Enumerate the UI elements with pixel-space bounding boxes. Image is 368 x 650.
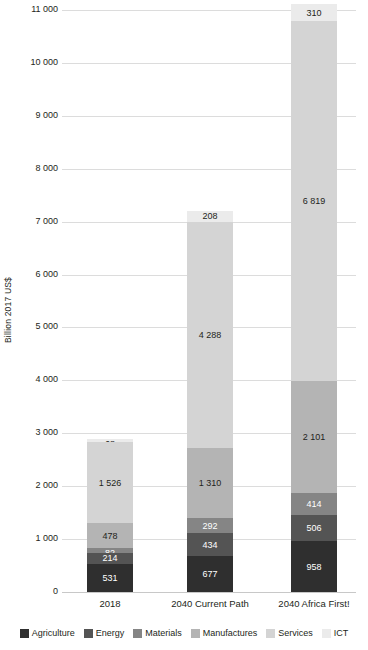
bar-segment[interactable]: 310: [291, 4, 337, 20]
bar-segment-label: 214: [87, 553, 133, 563]
stacked-bar[interactable]: 6774342921 3104 288208: [187, 10, 233, 592]
bar-segment-label: 958: [291, 562, 337, 572]
legend-swatch: [133, 629, 142, 638]
bar-group[interactable]: 6774342921 3104 288208: [187, 10, 233, 592]
y-tick-label: 10 000: [2, 57, 58, 67]
bar-segment-label: 478: [87, 531, 133, 541]
bar-segment-label: 208: [187, 211, 233, 221]
bar-segment[interactable]: 506: [291, 515, 337, 542]
bar-segment-label: 310: [291, 8, 337, 18]
legend-item[interactable]: Services: [266, 628, 313, 638]
y-tick-label: 5 000: [2, 321, 58, 331]
bar-segment-label: 82: [87, 548, 133, 552]
legend-swatch: [191, 629, 200, 638]
bar-segment[interactable]: 4 288: [187, 222, 233, 449]
legend-item[interactable]: Manufactures: [191, 628, 258, 638]
y-tick-label: 3 000: [2, 427, 58, 437]
y-tick-label: 8 000: [2, 163, 58, 173]
y-tick-label: 6 000: [2, 269, 58, 279]
bar-segment[interactable]: 434: [187, 533, 233, 556]
bar-segment-label: 531: [87, 573, 133, 583]
x-axis-line: [62, 592, 356, 593]
y-tick-label: 4 000: [2, 374, 58, 384]
bar-segment-label: 292: [187, 521, 233, 531]
legend-label: Materials: [145, 628, 182, 638]
bar-segment[interactable]: 531: [87, 564, 133, 592]
legend-label: ICT: [334, 628, 349, 638]
bar-segment[interactable]: 414: [291, 493, 337, 515]
bar-segment-label: 4 288: [187, 330, 233, 340]
bar-segment[interactable]: 677: [187, 556, 233, 592]
bar-segment[interactable]: 208: [187, 211, 233, 222]
y-tick-label: 1 000: [2, 533, 58, 543]
y-tick-label: 9 000: [2, 110, 58, 120]
bar-segment-label: 677: [187, 569, 233, 579]
bar-segment[interactable]: 1 526: [87, 442, 133, 523]
bar-segment[interactable]: 958: [291, 541, 337, 592]
legend-item[interactable]: ICT: [322, 628, 349, 638]
bar-segment[interactable]: 2 101: [291, 381, 337, 492]
bar-segment-label: 434: [187, 540, 233, 550]
legend-item[interactable]: Materials: [133, 628, 182, 638]
bar-segment[interactable]: 82: [87, 548, 133, 552]
bar-segment-label: 1 310: [187, 478, 233, 488]
legend-swatch: [322, 629, 331, 638]
bar-segment[interactable]: 292: [187, 518, 233, 533]
y-tick-label: 11 000: [2, 4, 58, 14]
legend-item[interactable]: Energy: [84, 628, 125, 638]
bar-segment-label: 68: [87, 439, 133, 443]
stacked-bar-chart: Billion 2017 US$ 01 0002 0003 0004 0005 …: [0, 0, 368, 650]
bar-segment[interactable]: 68: [87, 439, 133, 443]
bar-segment-label: 1 526: [87, 478, 133, 488]
legend-swatch: [84, 629, 93, 638]
x-tick-label: 2040 Current Path: [150, 598, 270, 609]
bar-segment[interactable]: 6 819: [291, 21, 337, 382]
bar-segment[interactable]: 214: [87, 553, 133, 564]
stacked-bar[interactable]: 531214824781 52668: [87, 10, 133, 592]
bar-segment-label: 414: [291, 499, 337, 509]
bar-segment-label: 506: [291, 523, 337, 533]
bar-segment[interactable]: 478: [87, 523, 133, 548]
bar-segment-label: 6 819: [291, 196, 337, 206]
y-tick-label: 2 000: [2, 480, 58, 490]
x-tick-label: 2040 Africa First!: [254, 598, 368, 609]
y-tick-label: 7 000: [2, 216, 58, 226]
legend-swatch: [20, 629, 29, 638]
legend-item[interactable]: Agriculture: [20, 628, 75, 638]
legend-label: Services: [278, 628, 313, 638]
legend-label: Agriculture: [32, 628, 75, 638]
bar-group[interactable]: 531214824781 52668: [87, 10, 133, 592]
legend-label: Energy: [96, 628, 125, 638]
plot-area: 01 0002 0003 0004 0005 0006 0007 0008 00…: [62, 10, 356, 592]
bar-segment-label: 2 101: [291, 432, 337, 442]
bar-segment[interactable]: 1 310: [187, 448, 233, 517]
legend-label: Manufactures: [203, 628, 258, 638]
legend: AgricultureEnergyMaterialsManufacturesSe…: [0, 628, 368, 638]
y-tick-label: 0: [2, 586, 58, 596]
stacked-bar[interactable]: 9585064142 1016 819310: [291, 10, 337, 592]
bar-group[interactable]: 9585064142 1016 819310: [291, 10, 337, 592]
legend-swatch: [266, 629, 275, 638]
